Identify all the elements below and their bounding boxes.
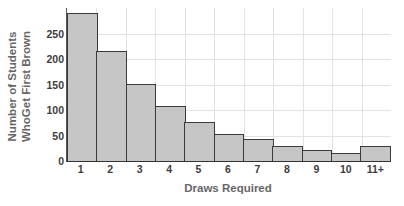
bar xyxy=(126,84,157,161)
bar xyxy=(272,146,303,161)
x-axis-title: Draws Required xyxy=(66,182,390,194)
y-axis-tick-label: 200 xyxy=(46,53,64,65)
bar xyxy=(331,153,362,161)
y-axis-tick-label: 0 xyxy=(58,155,64,167)
bar-chart: Number of Students WhoGet First Brown 05… xyxy=(0,0,404,206)
x-axis-tick-label: 4 xyxy=(154,163,183,179)
bar xyxy=(96,51,127,161)
x-axis-tick-label: 5 xyxy=(184,163,213,179)
bar xyxy=(214,134,245,161)
x-axis-tick-labels: 1234567891011+ xyxy=(66,163,390,179)
x-axis-tick-label: 1 xyxy=(66,163,95,179)
y-axis-title: Number of Students WhoGet First Brown xyxy=(0,0,40,172)
x-axis-tick-label: 8 xyxy=(272,163,301,179)
y-axis-title-line-1: Number of Students xyxy=(7,31,19,141)
bar xyxy=(184,122,215,161)
x-axis-tick-label: 11+ xyxy=(361,163,390,179)
y-axis-tick-labels: 050100150200250 xyxy=(38,0,64,172)
y-axis-tick-label: 50 xyxy=(52,130,64,142)
y-axis-tick-label: 100 xyxy=(46,104,64,116)
plot-area xyxy=(66,8,391,162)
x-axis-tick-label: 2 xyxy=(95,163,124,179)
y-axis-tick-label: 150 xyxy=(46,79,64,91)
bar xyxy=(155,106,186,161)
x-axis-tick-label: 3 xyxy=(125,163,154,179)
bar xyxy=(302,150,333,161)
y-axis-tick-label: 250 xyxy=(46,28,64,40)
x-axis-tick-label: 7 xyxy=(243,163,272,179)
bar xyxy=(360,146,391,161)
bar-series xyxy=(67,8,391,161)
x-axis-tick-label: 10 xyxy=(331,163,360,179)
y-axis-title-text: Number of Students WhoGet First Brown xyxy=(7,30,34,141)
bar xyxy=(67,13,98,161)
bar xyxy=(243,139,274,161)
x-axis-tick-label: 9 xyxy=(302,163,331,179)
x-axis-tick-label: 6 xyxy=(213,163,242,179)
y-axis-title-line-2: WhoGet First Brown xyxy=(20,30,32,141)
